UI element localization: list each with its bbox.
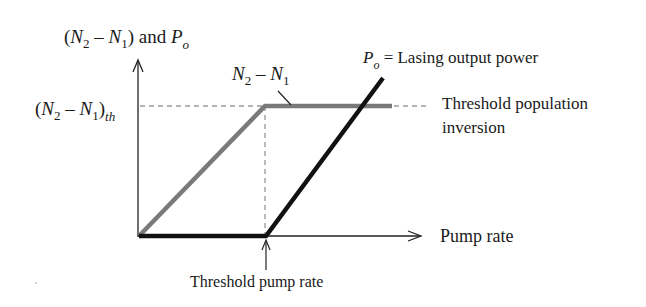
threshold-pump-label: Threshold pump rate — [190, 273, 323, 291]
y-axis-label: (N2 – N1) and Po — [64, 26, 190, 52]
inversion-label-leader — [278, 91, 291, 105]
laser-threshold-diagram: (N2 – N1) and Po (N2 – N1)th N2 – N1 Po … — [0, 0, 646, 307]
output-power-curve — [139, 78, 383, 236]
threshold-inversion-label-line2: inversion — [442, 118, 506, 137]
threshold-level-label: (N2 – N1)th — [35, 98, 115, 124]
population-inversion-curve — [140, 106, 392, 235]
scan-speck — [35, 282, 37, 284]
output-power-label: Po = Lasing output power — [362, 48, 539, 72]
threshold-inversion-label-line1: Threshold population — [442, 94, 588, 113]
inversion-curve-label: N2 – N1 — [231, 63, 289, 88]
x-axis-label: Pump rate — [440, 226, 514, 246]
